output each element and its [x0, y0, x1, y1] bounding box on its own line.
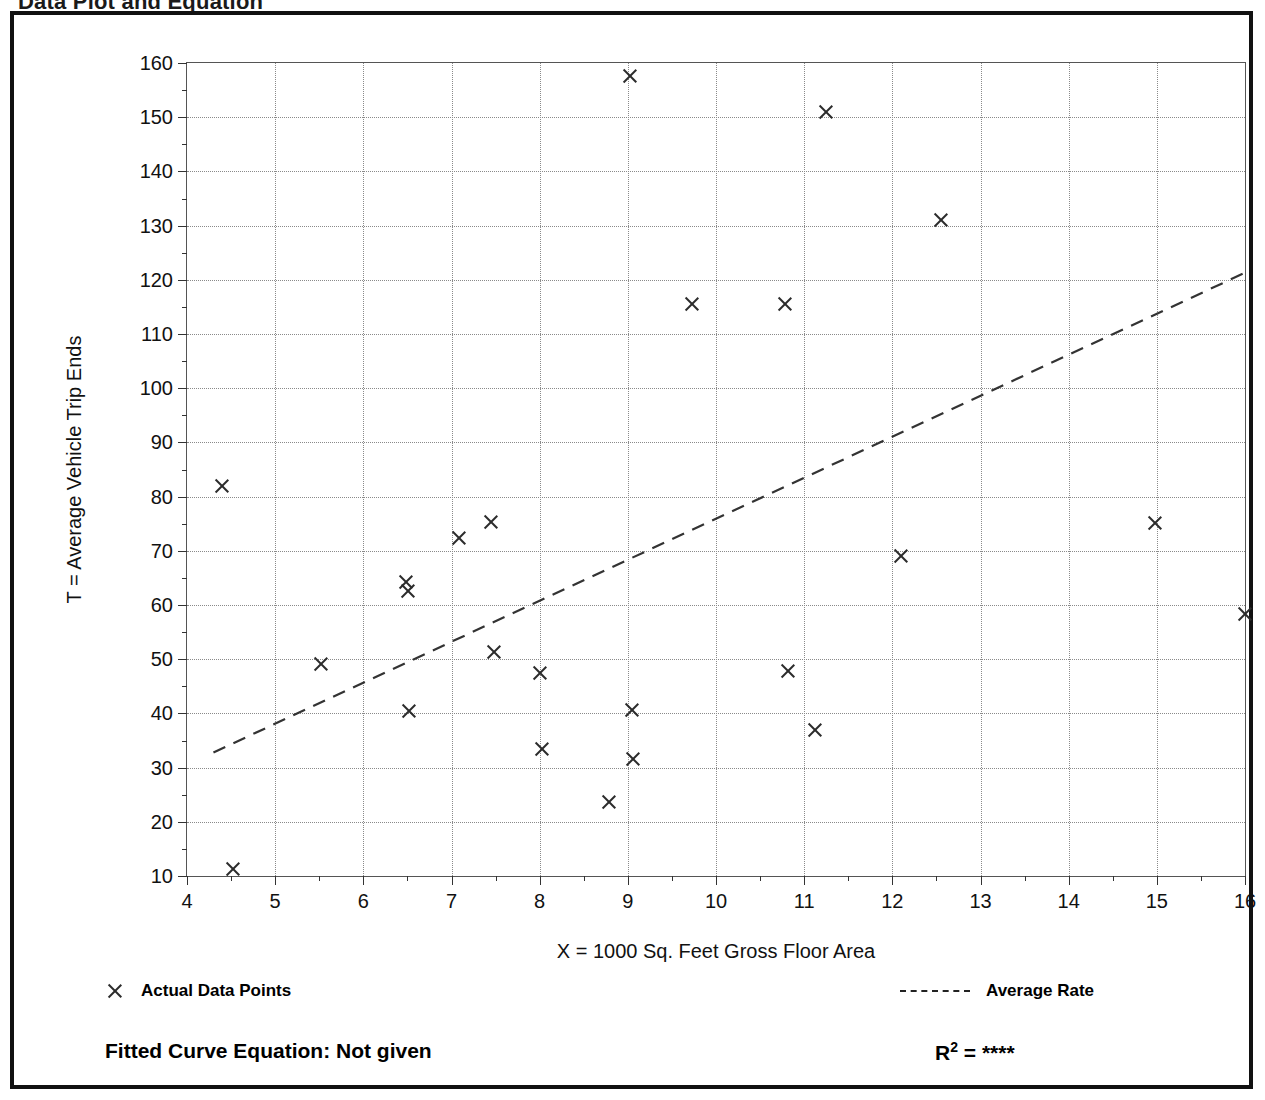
x-axis-tick-label: 8 — [534, 890, 545, 913]
r2-prefix: R — [935, 1041, 950, 1064]
y-axis-tick-label: 90 — [151, 431, 173, 454]
y-axis-tick — [178, 117, 187, 118]
y-axis-tick — [178, 280, 187, 281]
y-axis-tick-label: 20 — [151, 810, 173, 833]
data-point-marker — [482, 513, 500, 531]
x-axis-tick — [540, 876, 541, 885]
x-axis-tick-label: 4 — [181, 890, 192, 913]
x-axis-minor-tick — [407, 876, 408, 881]
y-axis-tick-label: 150 — [140, 106, 173, 129]
y-axis-tick — [178, 497, 187, 498]
x-axis-tick-label: 14 — [1058, 890, 1080, 913]
data-point-marker — [398, 582, 416, 600]
r2-equals: = — [958, 1041, 982, 1064]
x-axis-tick-label: 10 — [705, 890, 727, 913]
data-point-marker — [892, 547, 910, 565]
y-axis-tick — [178, 226, 187, 227]
data-point-marker — [817, 103, 835, 121]
x-axis-minor-tick — [936, 876, 937, 881]
x-axis-tick-label: 5 — [270, 890, 281, 913]
data-point-marker — [532, 740, 550, 758]
y-axis-tick — [178, 442, 187, 443]
x-axis-tick — [716, 876, 717, 885]
data-point-marker — [312, 655, 330, 673]
chart-page: Data Plot and Equation T = Average Vehic… — [0, 0, 1265, 1100]
x-axis-tick — [892, 876, 893, 885]
legend-label-average-rate: Average Rate — [986, 981, 1094, 1001]
x-axis-minor-tick — [1201, 876, 1202, 881]
plot-area: 1020304050607080901001101201301401501604… — [186, 62, 1246, 877]
r2-stars: **** — [982, 1041, 1015, 1064]
y-axis-tick-label: 130 — [140, 214, 173, 237]
y-axis-title-text: T = Average Vehicle Trip Ends — [64, 336, 87, 604]
x-axis-tick — [363, 876, 364, 885]
x-axis-tick — [187, 876, 188, 885]
y-axis-tick — [178, 822, 187, 823]
legend-item-actual-data-points: Actual Data Points — [105, 981, 291, 1001]
x-axis-tick — [452, 876, 453, 885]
x-axis-tick-label: 9 — [622, 890, 633, 913]
y-axis-tick — [178, 768, 187, 769]
data-point-marker — [400, 702, 418, 720]
data-point-marker — [621, 67, 639, 85]
data-point-marker — [779, 662, 797, 680]
x-axis-minor-tick — [1025, 876, 1026, 881]
x-axis-minor-tick — [672, 876, 673, 881]
data-point-marker — [485, 643, 503, 661]
dashed-line-icon — [900, 990, 970, 992]
x-axis-tick — [1245, 876, 1246, 885]
x-axis-tick-label: 13 — [969, 890, 991, 913]
x-axis-minor-tick — [760, 876, 761, 881]
y-axis-tick-label: 60 — [151, 594, 173, 617]
x-axis-tick — [804, 876, 805, 885]
x-axis-minor-tick — [1113, 876, 1114, 881]
average-rate-line — [187, 63, 1245, 876]
y-axis-tick-label: 80 — [151, 485, 173, 508]
r-squared-value: R2 = **** — [935, 1039, 1015, 1065]
r2-exponent: 2 — [950, 1039, 958, 1055]
y-axis-tick — [178, 334, 187, 335]
y-axis-tick — [178, 876, 187, 877]
y-axis-tick-label: 120 — [140, 268, 173, 291]
x-axis-tick — [628, 876, 629, 885]
data-point-marker — [1146, 514, 1164, 532]
legend-item-average-rate: Average Rate — [900, 981, 1094, 1001]
y-axis-tick — [178, 171, 187, 172]
y-axis-tick — [178, 605, 187, 606]
y-axis-title: T = Average Vehicle Trip Ends — [62, 62, 88, 877]
x-axis-minor-tick — [319, 876, 320, 881]
data-point-marker — [682, 295, 700, 313]
x-axis-tick-label: 6 — [358, 890, 369, 913]
y-axis-tick-label: 100 — [140, 377, 173, 400]
chart-footer: Fitted Curve Equation: Not given R2 = **… — [10, 1035, 1253, 1083]
y-axis-tick — [178, 63, 187, 64]
data-point-marker — [531, 664, 549, 682]
y-axis-tick-label: 110 — [141, 323, 173, 346]
y-axis-tick-label: 30 — [151, 756, 173, 779]
y-axis-tick — [178, 713, 187, 714]
data-point-marker — [1236, 605, 1254, 623]
data-point-marker — [623, 701, 641, 719]
x-axis-tick-label: 12 — [881, 890, 903, 913]
data-point-marker — [932, 211, 950, 229]
y-axis-tick — [178, 659, 187, 660]
x-marker-icon — [105, 981, 125, 1001]
data-point-marker — [599, 793, 617, 811]
x-axis-minor-tick — [496, 876, 497, 881]
x-axis-tick-label: 15 — [1146, 890, 1168, 913]
y-axis-tick-label: 160 — [140, 52, 173, 75]
chart-legend: Actual Data Points Average Rate — [10, 975, 1253, 1020]
y-axis-tick — [178, 388, 187, 389]
x-axis-tick-label: 16 — [1234, 890, 1256, 913]
x-axis-title: X = 1000 Sq. Feet Gross Floor Area — [186, 940, 1246, 963]
data-point-marker — [213, 477, 231, 495]
y-axis-tick-label: 40 — [151, 702, 173, 725]
y-axis-tick-label: 50 — [151, 648, 173, 671]
fitted-curve-equation: Fitted Curve Equation: Not given — [105, 1039, 432, 1063]
x-axis-minor-tick — [584, 876, 585, 881]
data-point-marker — [776, 295, 794, 313]
y-axis-tick-label: 140 — [140, 160, 173, 183]
x-axis-tick — [1069, 876, 1070, 885]
x-axis-tick — [981, 876, 982, 885]
x-axis-tick-label: 11 — [794, 890, 815, 913]
